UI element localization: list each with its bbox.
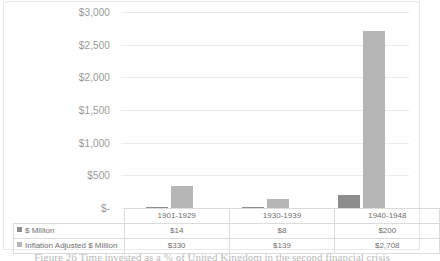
y-axis-tick-label: $1,000 [79, 137, 110, 148]
category-header-1901-1929: 1901-1929 [124, 209, 229, 224]
legend-label: Inflation Adjusted $ Million [25, 241, 118, 250]
data-cell: $14 [124, 224, 229, 239]
bar-1901-1929-series2[interactable] [171, 186, 193, 208]
category-header-1930-1939: 1930-1939 [229, 209, 334, 224]
y-axis-labels: $3,000$2,500$2,000$1,500$1,000$500$- [4, 2, 116, 218]
chart-figure: $3,000$2,500$2,000$1,500$1,000$500$- 190… [3, 1, 420, 250]
bar-group-1940-1948 [313, 12, 409, 208]
chart-data-table: 1901-19291930-19391940-1948$ Million$14$… [13, 208, 440, 254]
bar-1940-1948-series1[interactable] [338, 195, 360, 208]
legend-swatch-icon [17, 227, 22, 232]
legend-swatch-icon [17, 242, 22, 247]
data-cell: $8 [229, 224, 334, 239]
y-axis-tick-label: $2,500 [79, 39, 110, 50]
legend-label: $ Million [25, 226, 54, 235]
y-axis-tick-label: $1,500 [79, 105, 110, 116]
y-axis-tick-label: $3,000 [79, 7, 110, 18]
table-corner-cell [14, 209, 125, 224]
y-axis-tick-label: $500 [87, 170, 110, 181]
bar-group-1930-1939 [217, 12, 313, 208]
legend-entry-series1[interactable]: $ Million [14, 224, 125, 239]
data-cell: $200 [335, 224, 440, 239]
table-row: $ Million$14$8$200 [14, 224, 440, 239]
y-axis-tick-label: $2,000 [79, 72, 110, 83]
plot-area [121, 12, 409, 208]
bar-group-1901-1929 [121, 12, 217, 208]
bar-1930-1939-series2[interactable] [267, 199, 289, 208]
bar-1940-1948-series2[interactable] [363, 31, 385, 208]
figure-caption: Figure 26 Time invested as a % of United… [0, 251, 424, 261]
category-header-1940-1948: 1940-1948 [335, 209, 440, 224]
table-header-row: 1901-19291930-19391940-1948 [14, 209, 440, 224]
